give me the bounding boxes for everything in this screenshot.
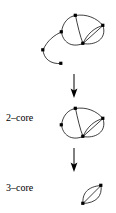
vertex-right bbox=[99, 184, 102, 187]
edge-lens-straight bbox=[83, 186, 101, 204]
figure-canvas: 2–core 3–core bbox=[0, 0, 116, 213]
edge-bottom-right-outer bbox=[83, 26, 104, 45]
vertex-bottom bbox=[81, 42, 84, 45]
edge-top-left bbox=[62, 16, 76, 33]
edge-bottom-right-straight bbox=[83, 119, 103, 137]
label-2-core: 2–core bbox=[6, 113, 33, 123]
edge-bottom-right-outer bbox=[83, 119, 104, 138]
vertex-pendant1 bbox=[41, 48, 44, 51]
vertex-left bbox=[60, 30, 63, 33]
label-3-core: 3–core bbox=[6, 183, 33, 193]
edge-pendant1-pendant2 bbox=[43, 50, 61, 64]
edge-top-bottom bbox=[76, 109, 84, 137]
vertex-left bbox=[60, 123, 63, 126]
edge-top-left bbox=[62, 109, 76, 126]
vertex-top bbox=[74, 14, 77, 17]
edge-top-right bbox=[76, 108, 104, 118]
arrow-original-to-2core bbox=[0, 72, 116, 102]
two-core-graph bbox=[0, 100, 116, 148]
vertex-right bbox=[101, 117, 104, 120]
vertex-bottom bbox=[81, 202, 84, 205]
edge-top-bottom bbox=[76, 16, 84, 44]
arrow-2core-to-3core bbox=[0, 146, 116, 176]
vertex-pendant2 bbox=[59, 62, 62, 65]
edge-bottom-right-straight bbox=[83, 26, 103, 44]
original-graph bbox=[0, 0, 116, 80]
vertex-right bbox=[101, 24, 104, 27]
edge-top-right bbox=[76, 15, 104, 25]
edge-left-pendant1 bbox=[43, 32, 62, 50]
vertex-bottom bbox=[81, 135, 84, 138]
vertex-top bbox=[74, 107, 77, 110]
